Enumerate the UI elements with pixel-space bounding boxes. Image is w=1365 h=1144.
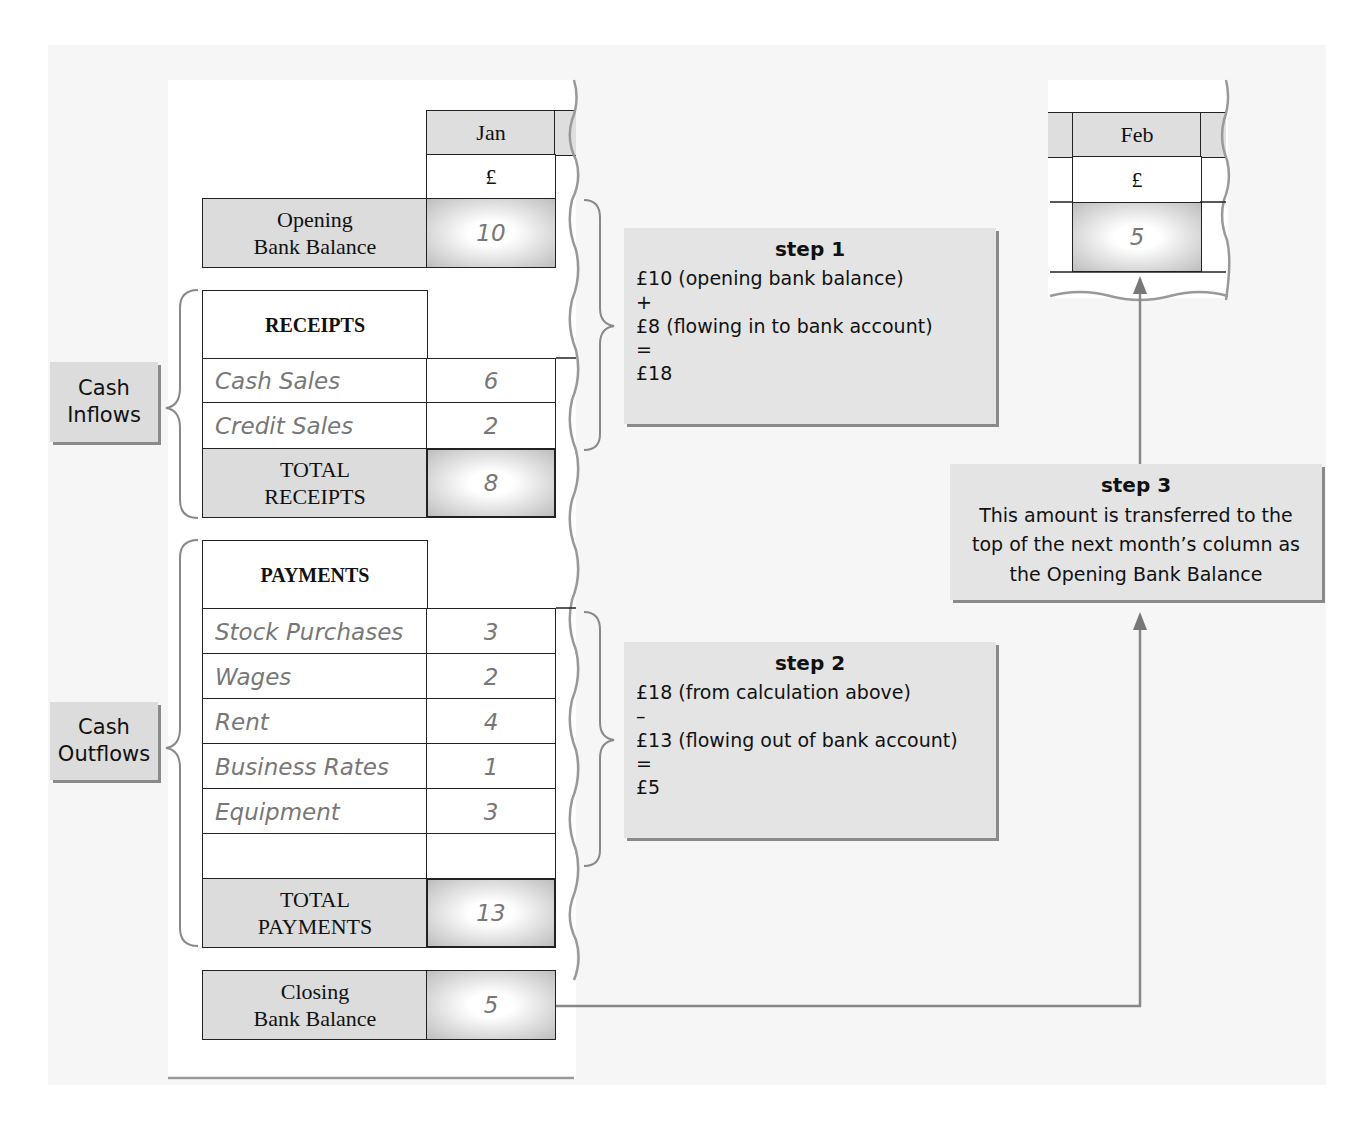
connector-line (556, 620, 1140, 1006)
brace-step1-icon (584, 200, 614, 450)
torn-edge-jan (570, 80, 579, 980)
brace-step2-icon (584, 612, 614, 866)
brace-inflows-icon (166, 290, 198, 518)
torn-edge-feb-right (1222, 80, 1229, 300)
arrow-up-icon (1133, 612, 1147, 630)
brace-outflows-icon (166, 540, 198, 946)
diagram-connectors (0, 0, 1365, 1144)
arrow-up-icon (1133, 276, 1147, 294)
